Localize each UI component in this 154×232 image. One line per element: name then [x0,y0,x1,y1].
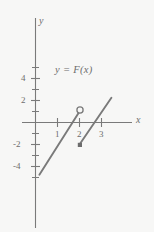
function-branch-2 [80,98,112,145]
curve-equation-label: y = F(x) [55,65,92,76]
y-tick-label-neg2: -2 [13,140,21,149]
x-tick-label-2: 2 [77,130,82,139]
y-tick-label-2: 2 [21,96,26,105]
x-tick-label-1: 1 [55,130,60,139]
x-tick-label-3: 3 [99,130,104,139]
closed-endpoint-marker [78,143,82,147]
y-tick-label-neg4: -4 [13,162,21,171]
y-axis-label: y [39,16,43,26]
x-axis-label: x [136,115,140,125]
y-tick-label-4: 4 [21,74,26,83]
piecewise-function-figure: y x y = F(x) 4 2 -2 -4 1 2 3 [0,0,154,232]
open-endpoint-marker [77,107,83,113]
graph-canvas [0,0,154,232]
function-branch-1 [39,112,79,175]
